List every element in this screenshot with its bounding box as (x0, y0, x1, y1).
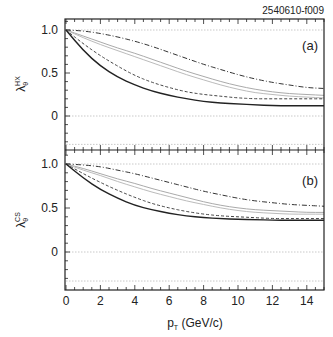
y-tick-label: 0.5 (41, 201, 58, 215)
x-tick-labels: 02468101214 (63, 294, 314, 308)
reference-lines (66, 164, 323, 281)
y-tick-label: 1.0 (41, 23, 58, 37)
figure-id: 2540610-f009 (262, 5, 324, 16)
panel-label-a: (a) (302, 38, 318, 53)
curve-solid (66, 30, 324, 106)
curve-dashed (66, 30, 324, 99)
chart-svg: 2540610-f009 00.51.0 (a) λθHX 00.51.0 (b… (0, 0, 333, 337)
x-tick-label: 12 (266, 294, 280, 308)
curve-grey-1 (66, 30, 324, 95)
reference-lines (66, 30, 323, 144)
curves (66, 164, 324, 220)
x-tick-label: 6 (166, 294, 173, 308)
y-tick-labels: 00.51.0 (41, 23, 58, 123)
plot-frame (65, 19, 324, 290)
panel-b: 00.51.0 (b) λθCS (14, 150, 324, 290)
x-tick-label: 2 (97, 294, 104, 308)
ylabel-sub: θ (22, 82, 29, 86)
curve-grey-1 (66, 164, 324, 212)
x-tick-label: 8 (200, 294, 207, 308)
curve-solid (66, 164, 324, 220)
y-axis-title-b: λθCS (14, 212, 29, 228)
xlabel-rest: (GeV/c) (178, 316, 223, 330)
tick-marks (65, 19, 324, 150)
curve-grey-2 (66, 30, 324, 98)
panel-label-b: (b) (302, 173, 318, 188)
ylabel-sup: HX (14, 76, 21, 86)
y-tick-label: 0 (51, 109, 58, 123)
ylabel-sub: θ (22, 218, 29, 222)
figure: 2540610-f009 00.51.0 (a) λθHX 00.51.0 (b… (0, 0, 333, 337)
x-tick-label: 14 (300, 294, 314, 308)
ylabel-sup: CS (14, 212, 21, 222)
x-axis-title: pT (GeV/c) (167, 316, 223, 331)
x-tick-label: 10 (231, 294, 245, 308)
panel-a: 00.51.0 (a) λθHX (14, 19, 324, 150)
svg-text:λθCS: λθCS (14, 212, 29, 228)
curves (66, 30, 324, 106)
y-tick-label: 0.5 (41, 66, 58, 80)
curve-dash-dot (66, 30, 324, 88)
y-tick-label: 1.0 (41, 157, 58, 171)
x-tick-label: 4 (131, 294, 138, 308)
y-axis-title-a: λθHX (14, 76, 29, 92)
y-tick-labels: 00.51.0 (41, 157, 58, 259)
x-tick-label: 0 (63, 294, 70, 308)
y-tick-label: 0 (51, 245, 58, 259)
svg-text:λθHX: λθHX (14, 76, 29, 92)
